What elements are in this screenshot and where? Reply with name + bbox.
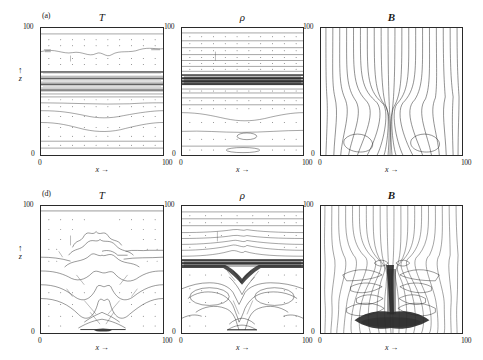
y-tick-max-d-rho: 100 xyxy=(164,200,174,209)
panel-a-temperature: T 100 0 0 100 x → xyxy=(40,27,164,156)
y-tick-max-a-B: 100 xyxy=(303,22,313,31)
y-tick-min-d-rho: 0 xyxy=(172,327,175,336)
z-axis-text-d: z xyxy=(19,252,22,261)
figure-canvas: (a) ↑ z T 100 0 0 100 x → xyxy=(0,0,483,360)
z-axis-arrow: ↑ xyxy=(18,66,23,74)
z-axis-label-d: ↑ z xyxy=(18,244,23,261)
y-tick-min-d-B: 0 xyxy=(311,327,314,336)
panel-title-d-T: T xyxy=(40,189,164,201)
plot-area-d-B xyxy=(320,205,463,334)
field-line-plot-d-B xyxy=(321,206,462,333)
contour-plot-a-rho xyxy=(182,28,303,155)
field-line-plot-a-B xyxy=(321,28,462,155)
x-axis-label-d-T: x → xyxy=(40,343,164,352)
figure-row-a: (a) ↑ z T 100 0 0 100 x → xyxy=(0,8,483,178)
velocity-field-a-T xyxy=(48,39,155,145)
panel-d-temperature: T 100 0 0 100 x → xyxy=(40,205,164,334)
panel-a-density: ρ 100 0 0 100 x → xyxy=(181,27,304,156)
panel-title-a-B: B xyxy=(320,11,463,23)
plot-area-a-B xyxy=(320,27,463,156)
y-tick-min-a-T: 0 xyxy=(31,149,34,158)
figure-row-d: (d) ↑ z T 100 0 0 100 x → xyxy=(0,186,483,356)
panel-a-magnetic-field: B 100 0 0 100 x → xyxy=(320,27,463,156)
y-tick-min-d-T: 0 xyxy=(31,327,34,336)
plot-area-d-rho xyxy=(181,205,304,334)
z-axis-arrow-d: ↑ xyxy=(18,244,23,252)
plot-area-a-rho xyxy=(181,27,304,156)
panel-d-magnetic-field: B 100 0 0 100 x → xyxy=(320,205,463,334)
y-tick-min-a-B: 0 xyxy=(311,149,314,158)
panel-title-d-B: B xyxy=(320,189,463,201)
x-axis-label-a-T: x → xyxy=(40,165,164,174)
panel-title-a-rho: ρ xyxy=(181,11,304,23)
x-axis-label-a-rho: x → xyxy=(181,165,304,174)
contour-plot-d-T xyxy=(41,206,163,333)
contour-plot-a-T xyxy=(41,28,163,155)
plot-area-a-T xyxy=(40,27,164,156)
y-tick-min-a-rho: 0 xyxy=(172,149,175,158)
y-tick-max-a-T: 100 xyxy=(23,22,33,31)
y-tick-max-a-rho: 100 xyxy=(164,22,174,31)
z-axis-label-a: ↑ z xyxy=(18,66,23,83)
z-axis-text: z xyxy=(19,74,22,83)
x-axis-label-d-B: x → xyxy=(320,343,463,352)
y-tick-max-d-T: 100 xyxy=(23,200,33,209)
x-axis-label-d-rho: x → xyxy=(181,343,304,352)
contour-plot-d-rho xyxy=(182,206,303,333)
plot-area-d-T xyxy=(40,205,164,334)
panel-title-a-T: T xyxy=(40,11,164,23)
panel-d-density: ρ 100 0 0 100 x → xyxy=(181,205,304,334)
y-tick-max-d-B: 100 xyxy=(303,200,313,209)
panel-title-d-rho: ρ xyxy=(181,189,304,201)
x-axis-label-a-B: x → xyxy=(320,165,463,174)
